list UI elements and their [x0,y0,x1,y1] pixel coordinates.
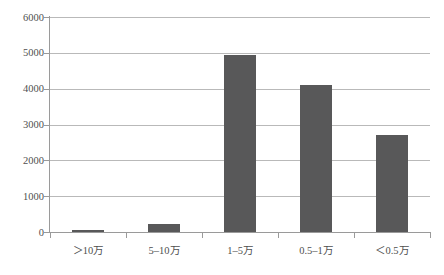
x-axis-label-0: ＞10万 [50,245,126,257]
x-axis-label-4: ＜0.5万 [354,245,430,257]
bar-category-1[interactable] [148,224,180,232]
x-axis-label-2: 1–5万 [202,245,278,257]
y-tick-0 [44,232,49,233]
bar-category-4[interactable] [376,135,408,232]
y-axis-label-2000: 2000 [4,155,44,166]
y-axis-label-4000: 4000 [4,83,44,94]
y-axis-label-5000: 5000 [4,47,44,58]
gridline-0-baseline [50,232,430,233]
y-tick-2000 [44,160,49,161]
x-axis-label-3: 0.5–1万 [278,245,354,257]
bars-layer [50,17,430,232]
y-axis-label-3000: 3000 [4,119,44,130]
y-tick-4000 [44,89,49,90]
bar-category-3[interactable] [300,85,332,232]
bar-chart: 6000 5000 4000 3000 2000 1000 0 ＞10万 5–1… [0,0,444,275]
y-axis-label-6000: 6000 [4,12,44,23]
x-axis-label-1: 5–10万 [126,245,202,257]
y-tick-1000 [44,196,49,197]
x-tick-5 [430,232,431,238]
bar-category-2[interactable] [224,55,256,232]
x-tick-0 [50,232,51,238]
x-tick-2 [202,232,203,238]
x-tick-3 [278,232,279,238]
y-tick-6000 [44,17,49,18]
y-axis-label-0: 0 [4,227,44,238]
y-tick-5000 [44,53,49,54]
bar-category-0[interactable] [72,230,104,232]
y-axis-label-1000: 1000 [4,191,44,202]
x-tick-4 [354,232,355,238]
x-tick-1 [126,232,127,238]
y-tick-3000 [44,125,49,126]
